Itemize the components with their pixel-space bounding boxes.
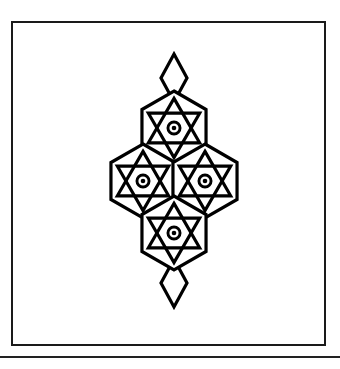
art-layer xyxy=(111,54,237,307)
center-dot xyxy=(172,126,177,131)
horizontal-divider-rule xyxy=(0,356,340,358)
center-dot xyxy=(172,231,177,236)
interlaced-hexagram-rosette-artwork xyxy=(0,0,340,369)
center-dot xyxy=(141,179,146,184)
figure-root xyxy=(0,0,340,369)
center-dot xyxy=(203,179,208,184)
